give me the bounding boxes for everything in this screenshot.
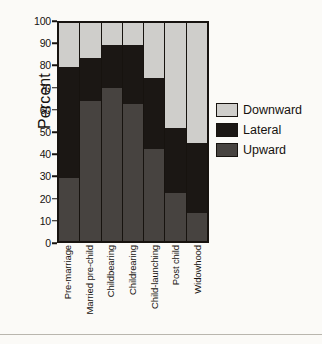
x-tick: Pre-marriage — [57, 245, 79, 323]
chart-legend: DownwardLateralUpward — [216, 101, 316, 161]
chart-figure: 1009080706050403020100 Percent Pre-marri… — [0, 0, 322, 344]
x-tick: Childrearing — [122, 245, 144, 323]
bar-column — [102, 23, 123, 241]
bar-segment-downward — [80, 23, 100, 58]
legend-item: Downward — [216, 101, 316, 119]
bar-segment-downward — [123, 23, 143, 45]
legend-item: Upward — [216, 141, 316, 159]
bar-segment-upward — [187, 213, 207, 241]
legend-swatch-lateral — [216, 123, 238, 137]
bar-segment-lateral — [80, 58, 100, 102]
y-axis-title: Percent — [36, 51, 54, 151]
legend-label: Downward — [243, 104, 302, 117]
bar-segment-upward — [144, 149, 164, 241]
bar-segment-downward — [165, 23, 185, 128]
x-tick: Widowhood — [187, 245, 209, 323]
x-tick: Childbearing — [100, 245, 122, 323]
bar-segment-downward — [102, 23, 122, 45]
bar-segment-downward — [59, 23, 79, 67]
x-tick-label: Widowhood — [193, 245, 203, 294]
bar-column — [59, 23, 80, 241]
bar-segment-upward — [80, 101, 100, 241]
bar-segment-lateral — [123, 45, 143, 104]
bar-column — [165, 23, 186, 241]
x-tick-label: Childbearing — [107, 245, 117, 297]
x-tick: Married pre-child — [79, 245, 101, 323]
page-rule — [0, 334, 322, 335]
legend-label: Upward — [243, 144, 286, 157]
legend-swatch-upward — [216, 143, 238, 157]
x-tick: Child-launching — [144, 245, 166, 323]
bar-segment-lateral — [187, 143, 207, 213]
bar-segment-lateral — [59, 67, 79, 178]
bar-segment-lateral — [165, 128, 185, 193]
legend-label: Lateral — [243, 124, 281, 137]
legend-swatch-downward — [216, 103, 238, 117]
bar-segment-downward — [144, 23, 164, 78]
bar-segment-upward — [102, 88, 122, 241]
bar-segment-upward — [123, 104, 143, 241]
x-tick-label: Child-launching — [150, 245, 160, 309]
bar-column — [80, 23, 101, 241]
x-tick-label: Pre-marriage — [63, 245, 73, 299]
x-axis: Pre-marriageMarried pre-childChildbearin… — [57, 245, 209, 323]
bar-column — [187, 23, 207, 241]
x-tick-label: Post child — [172, 245, 182, 285]
bar-segment-upward — [59, 178, 79, 241]
x-tick-label: Married pre-child — [85, 245, 95, 315]
bar-segment-upward — [165, 193, 185, 241]
plot-area — [57, 21, 209, 243]
stacked-bars — [59, 23, 207, 241]
legend-item: Lateral — [216, 121, 316, 139]
bar-segment-lateral — [102, 45, 122, 89]
x-tick-label: Childrearing — [128, 245, 138, 295]
bar-segment-downward — [187, 23, 207, 143]
x-tick: Post child — [166, 245, 188, 323]
bar-column — [123, 23, 144, 241]
bar-column — [144, 23, 165, 241]
bar-segment-lateral — [144, 78, 164, 150]
